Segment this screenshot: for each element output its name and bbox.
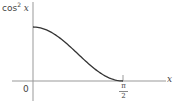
- cos-squared-curve: [33, 27, 123, 81]
- x-axis-label: x: [167, 75, 172, 84]
- pi-over-2-numerator: π: [119, 83, 128, 90]
- y-axis-label-exponent: 2: [17, 1, 21, 8]
- y-axis-label-fn: cos: [2, 3, 17, 13]
- pi-over-2-denominator: 2: [119, 93, 128, 100]
- y-axis-label-var: x: [24, 3, 29, 13]
- y-axis-label: cos2 x: [2, 2, 29, 13]
- pi-over-2-label: π 2: [119, 83, 128, 100]
- origin-label: 0: [23, 85, 29, 94]
